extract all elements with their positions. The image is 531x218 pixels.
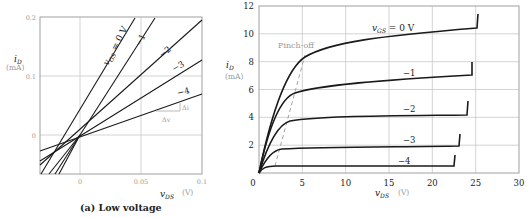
y-tick-label: 10 bbox=[243, 29, 254, 39]
x-tick-label: 0 bbox=[250, 178, 255, 188]
caption: (a) Low voltage bbox=[80, 202, 162, 213]
slope-di-label: Δi bbox=[182, 104, 189, 112]
x-axis-label: vDS bbox=[375, 188, 389, 199]
label-vgs-minus4: −4 bbox=[176, 85, 191, 98]
x-tick-label: 30 bbox=[514, 178, 525, 188]
pinch-off-label: Pinch-off bbox=[278, 41, 315, 50]
y-axis-unit: (mA) bbox=[225, 72, 243, 81]
x-tick-label: 5 bbox=[300, 178, 305, 188]
x-tick-label: 0 bbox=[78, 178, 82, 186]
y-tick-label: 12 bbox=[243, 1, 254, 11]
y-tick-label: 0.1 bbox=[26, 73, 36, 81]
x-tick-label: 20 bbox=[427, 178, 438, 188]
label-vgs-minus3: −3 bbox=[403, 135, 416, 145]
line-extra bbox=[49, 135, 80, 174]
x-tick-label: 0.1 bbox=[197, 178, 207, 186]
y-tick-label: 0 bbox=[32, 132, 36, 140]
x-axis-unit: (V) bbox=[398, 188, 409, 197]
svg-text:vGS = 0 V: vGS = 0 V bbox=[101, 24, 131, 67]
x-tick-label: 25 bbox=[470, 178, 481, 188]
label-vgs-0: vGS = 0 V bbox=[372, 23, 415, 34]
y-tick-label: 4 bbox=[249, 112, 254, 122]
label-vgs-minus2: −2 bbox=[157, 44, 173, 60]
label-vgs-0: vGS = 0 V bbox=[101, 24, 131, 67]
figure: Δi Δv vGS = 0 V −1 −2 −3 −4 0.2 0.1 0 0 … bbox=[0, 0, 531, 218]
left-chart: Δi Δv vGS = 0 V −1 −2 −3 −4 0.2 0.1 0 0 … bbox=[6, 14, 207, 213]
curve-vgs-minus4 bbox=[259, 155, 455, 173]
label-vgs-minus1: −1 bbox=[133, 32, 148, 48]
slope-triangle bbox=[156, 103, 180, 111]
label-vgs-minus1: −1 bbox=[403, 68, 416, 78]
label-vgs-minus4: −4 bbox=[398, 156, 411, 166]
x-axis-unit: (V) bbox=[182, 188, 193, 197]
x-tick-label: 0.05 bbox=[134, 178, 148, 186]
y-axis-unit: (mA) bbox=[6, 63, 24, 72]
line-vgs-minus3 bbox=[40, 60, 202, 161]
y-axis-label: iD bbox=[226, 60, 234, 71]
x-tick-label: 10 bbox=[340, 178, 351, 188]
y-tick-label: 8 bbox=[249, 57, 254, 67]
label-vgs-minus2: −2 bbox=[403, 104, 416, 114]
line-vgs-minus4 bbox=[40, 94, 202, 151]
y-tick-label: 6 bbox=[249, 85, 254, 95]
y-tick-label: 0.2 bbox=[26, 14, 36, 22]
curve-vgs-minus2 bbox=[259, 101, 468, 173]
right-chart: Pinch-off vGS = 0 V −1 −2 −3 −4 12 10 8 … bbox=[225, 1, 524, 199]
x-axis-label: vDS bbox=[160, 189, 174, 200]
x-tick-label: 15 bbox=[384, 178, 395, 188]
curve-vgs-minus3 bbox=[259, 134, 460, 173]
slope-dv-label: Δv bbox=[162, 116, 171, 124]
y-tick-label: 2 bbox=[249, 140, 254, 150]
